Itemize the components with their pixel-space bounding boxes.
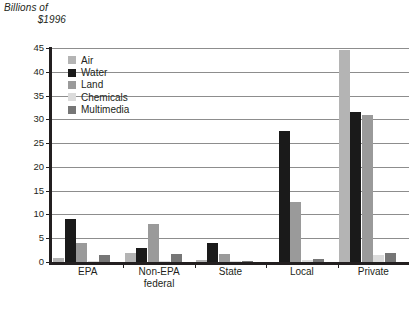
x-label-line-1: Private <box>358 266 389 277</box>
y-tick-label-25: 25 <box>2 138 44 148</box>
bar-private-water <box>350 112 361 262</box>
legend-swatch-chemicals-icon <box>68 93 76 101</box>
bar-non-epa-federal-land <box>148 224 159 262</box>
bar-state-air <box>196 260 207 262</box>
legend-label-water: Water <box>81 67 107 78</box>
y-tick-10 <box>46 214 50 215</box>
x-label-line-1: State <box>219 266 242 277</box>
x-axis-label-state: State <box>195 266 266 278</box>
y-tick-label-20: 20 <box>2 162 44 172</box>
y-tick-label-35: 35 <box>2 91 44 101</box>
bar-non-epa-federal-multimedia <box>171 254 182 262</box>
x-axis-label-epa: EPA <box>52 266 123 278</box>
x-axis-category-labels: EPANon-EPAfederalStateLocalPrivate <box>52 266 409 296</box>
legend-item-multimedia: Multimedia <box>68 104 172 116</box>
bar-state-water <box>207 243 218 262</box>
bar-state-multimedia <box>242 261 253 263</box>
legend: AirWaterLandChemicalsMultimedia <box>68 54 172 116</box>
y-tick-15 <box>46 191 50 192</box>
bar-local-chemicals <box>302 260 313 262</box>
bar-local-land <box>290 202 301 262</box>
y-tick-label-0: 0 <box>2 257 44 267</box>
legend-label-land: Land <box>81 79 103 90</box>
bar-group-private <box>338 48 409 262</box>
y-axis-tick-labels: 454035302520151050 <box>0 48 44 262</box>
x-label-line-2: federal <box>123 278 194 290</box>
legend-swatch-air-icon <box>68 56 76 64</box>
y-tick-30 <box>46 119 50 120</box>
x-axis-label-non-epa-federal: Non-EPAfederal <box>123 266 194 290</box>
bar-local-multimedia <box>313 259 324 262</box>
legend-label-chemicals: Chemicals <box>81 92 128 103</box>
y-tick-5 <box>46 238 50 239</box>
bar-epa-land <box>76 243 87 262</box>
legend-item-water: Water <box>68 66 172 78</box>
y-tick-label-30: 30 <box>2 114 44 124</box>
bar-non-epa-federal-water <box>136 248 147 262</box>
bar-epa-water <box>65 219 76 262</box>
x-label-line-1: EPA <box>78 266 97 277</box>
y-tick-label-10: 10 <box>2 209 44 219</box>
x-label-line-1: Local <box>290 266 314 277</box>
y-tick-40 <box>46 72 50 73</box>
legend-label-air: Air <box>81 55 93 66</box>
bar-epa-air <box>53 258 64 262</box>
figure: Billions of $1996 454035302520151050 EPA… <box>0 0 417 309</box>
bar-group-state <box>195 48 266 262</box>
y-axis-title-line-1: Billions of <box>4 2 124 14</box>
legend-label-multimedia: Multimedia <box>81 104 129 115</box>
y-axis-title: Billions of $1996 <box>4 2 124 26</box>
x-axis-label-private: Private <box>338 266 409 278</box>
y-tick-20 <box>46 167 50 168</box>
y-tick-label-5: 5 <box>2 233 44 243</box>
legend-swatch-multimedia-icon <box>68 106 76 114</box>
y-axis-title-line-2: $1996 <box>4 14 66 26</box>
y-tick-45 <box>46 48 50 49</box>
bar-private-air <box>339 50 350 262</box>
bar-epa-chemicals <box>88 261 99 263</box>
legend-swatch-water-icon <box>68 69 76 77</box>
y-tick-35 <box>46 96 50 97</box>
y-tick-label-15: 15 <box>2 186 44 196</box>
bar-private-chemicals <box>373 255 384 262</box>
bar-private-multimedia <box>385 253 396 263</box>
legend-swatch-land-icon <box>68 81 76 89</box>
bar-state-land <box>219 254 230 262</box>
bar-non-epa-federal-chemicals <box>159 261 170 263</box>
bar-local-water <box>279 131 290 262</box>
bar-group-local <box>266 48 337 262</box>
bar-non-epa-federal-air <box>125 253 136 263</box>
x-label-line-1: Non-EPA <box>139 266 180 277</box>
legend-item-chemicals: Chemicals <box>68 91 172 103</box>
legend-item-air: Air <box>68 54 172 66</box>
x-axis-label-local: Local <box>266 266 337 278</box>
bar-epa-multimedia <box>99 255 110 262</box>
y-tick-25 <box>46 143 50 144</box>
x-axis-line <box>49 262 409 265</box>
y-tick-label-45: 45 <box>2 43 44 53</box>
y-tick-0 <box>46 262 50 263</box>
y-tick-label-40: 40 <box>2 67 44 77</box>
bar-private-land <box>362 115 373 262</box>
bar-state-chemicals <box>230 261 241 263</box>
legend-item-land: Land <box>68 79 172 91</box>
